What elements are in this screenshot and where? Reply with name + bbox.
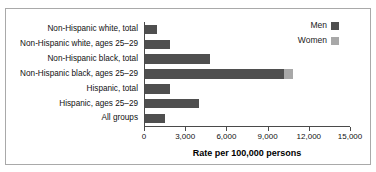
category-label: Non-Hispanic black, ages 25–29 (14, 67, 142, 82)
bar-row[interactable] (145, 96, 350, 111)
category-label: Hispanic, ages 25–29 (14, 96, 142, 111)
bar-segment-men[interactable] (145, 114, 165, 124)
bar-row[interactable] (145, 67, 350, 82)
bar-row[interactable] (145, 81, 350, 96)
x-axis-tick (144, 127, 145, 131)
x-axis-tick (185, 127, 186, 131)
x-axis-tick-label: 9,000 (258, 132, 278, 141)
x-axis-tick-label: 3,000 (175, 132, 195, 141)
bar-segment-men[interactable] (145, 99, 199, 109)
bar-segment-men[interactable] (145, 69, 284, 79)
x-axis-tick (350, 127, 351, 131)
plot-area: Non-Hispanic white, total Non-Hispanic w… (14, 22, 364, 137)
category-label: Hispanic, total (14, 81, 142, 96)
category-label: Non-Hispanic black, total (14, 52, 142, 67)
bar-segment-men[interactable] (145, 54, 210, 64)
x-axis-tick-label: 6,000 (216, 132, 236, 141)
bar-segment-men[interactable] (145, 84, 170, 94)
x-axis-tick-label: 15,000 (338, 132, 362, 141)
x-axis-tick (226, 127, 227, 131)
bar-segment-men[interactable] (145, 25, 157, 35)
chart-figure: Men Women Non-Hispanic white, total Non-… (5, 8, 371, 165)
x-axis-tick-label: 0 (142, 132, 146, 141)
bar-row[interactable] (145, 22, 350, 37)
bar-segment-women[interactable] (284, 69, 292, 79)
bar-row[interactable] (145, 111, 350, 126)
bar-row[interactable] (145, 52, 350, 67)
x-axis-title: Rate per 100,000 persons (144, 148, 350, 158)
category-label: Non-Hispanic white, total (14, 22, 142, 37)
x-axis: 03,0006,0009,00012,00015,000 (144, 126, 350, 132)
category-axis-labels: Non-Hispanic white, total Non-Hispanic w… (14, 22, 142, 126)
x-axis-tick-label: 12,000 (297, 132, 321, 141)
category-label: All groups (14, 111, 142, 126)
bars-container (144, 22, 350, 126)
bar-segment-men[interactable] (145, 40, 170, 50)
category-label: Non-Hispanic white, ages 25–29 (14, 37, 142, 52)
x-axis-tick (268, 127, 269, 131)
bar-row[interactable] (145, 37, 350, 52)
x-axis-tick (309, 127, 310, 131)
